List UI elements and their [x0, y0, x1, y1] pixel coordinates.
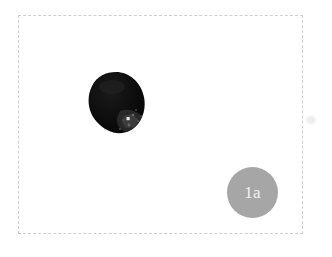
- figure-canvas: 1a: [0, 0, 332, 257]
- specimen-image: [86, 71, 148, 135]
- specimen-speckle: [128, 124, 131, 127]
- panel-label-text: 1a: [244, 184, 261, 201]
- specimen-speckle: [140, 115, 142, 117]
- edge-smudge-artifact: [306, 116, 316, 124]
- specimen-speckle: [135, 109, 137, 111]
- specimen-sheen: [99, 80, 125, 94]
- specimen-speckle: [132, 114, 135, 117]
- specimen-blob-icon: [86, 71, 148, 135]
- specimen-speckle: [122, 119, 124, 121]
- specimen-highlight: [127, 117, 130, 120]
- panel-label-badge: 1a: [227, 167, 278, 218]
- specimen-speckle: [119, 128, 121, 130]
- specimen-speckle: [137, 120, 139, 122]
